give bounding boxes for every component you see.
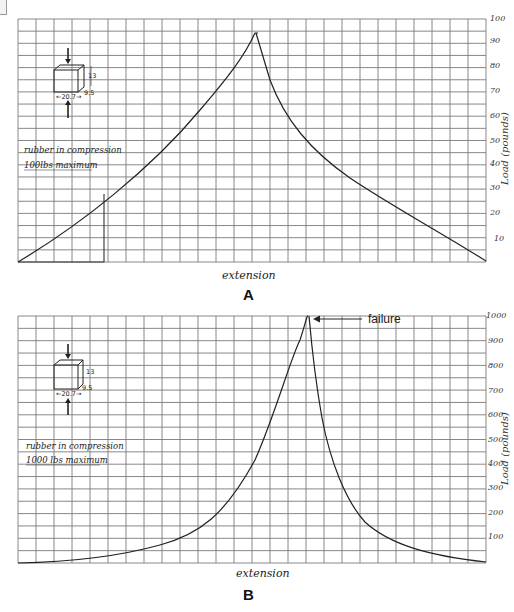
chart-a-x-label: extension (222, 269, 276, 282)
failure-label: failure (368, 312, 401, 326)
chart-a-dim-width: ←20.7→ (56, 93, 82, 101)
chart-a-origin-bracket (18, 194, 104, 262)
svg-text:100: 100 (488, 532, 503, 541)
chart-a-note-line1: rubber in compression (24, 145, 122, 155)
svg-text:80: 80 (490, 61, 500, 70)
chart-b-note-line1: rubber in compression (26, 441, 124, 451)
chart-b-dim-height: 13 (86, 368, 94, 376)
chart-b-y-label: Load (pounds) (499, 412, 510, 486)
svg-text:100: 100 (490, 14, 505, 23)
svg-text:10: 10 (494, 234, 504, 243)
svg-text:900: 900 (488, 336, 503, 345)
svg-text:90: 90 (490, 36, 500, 45)
svg-text:70: 70 (490, 86, 500, 95)
chart-b: failure ←20.7→ 13 9.5 rubber in compress… (0, 300, 514, 612)
chart-a-dim-height: 13 (88, 72, 96, 80)
chart-b-dim-width: ←20.7→ (56, 390, 82, 398)
chart-a-grid (18, 19, 486, 262)
panel-label-b: B (243, 586, 254, 603)
chart-b-x-label: extension (236, 567, 290, 580)
chart-b-grid (18, 316, 486, 563)
chart-a: ←20.7→ 13 9.5 rubber in compression 100l… (0, 0, 514, 300)
svg-text:20: 20 (489, 208, 500, 217)
svg-text:700: 700 (488, 386, 503, 395)
chart-b-dim-depth: 9.5 (82, 384, 92, 392)
chart-b-note-line2: 1000 lbs maximum (26, 455, 108, 465)
svg-text:1000: 1000 (486, 311, 506, 320)
chart-a-y-label: Load (pounds) (499, 112, 510, 186)
chart-a-note-line2: 100lbs maximum (24, 160, 98, 170)
chart-b-specimen-icon: ←20.7→ 13 9.5 (54, 344, 94, 415)
chart-a-dim-depth: 9.5 (84, 89, 94, 97)
svg-text:200: 200 (487, 508, 503, 517)
svg-text:800: 800 (488, 361, 503, 370)
chart-b-failure-annotation: failure (313, 312, 401, 326)
